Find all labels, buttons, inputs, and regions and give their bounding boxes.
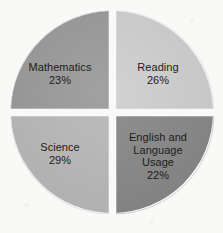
pie-slice-label-reading: Reading 26%	[120, 61, 196, 86]
pie-slice-percent-reading: 26%	[120, 74, 196, 87]
pie-slice-label-mathematics: Mathematics 23%	[14, 61, 106, 86]
pie-slice-name-reading: Reading	[120, 61, 196, 74]
pie-chart-canvas	[0, 0, 223, 233]
pie-slice-label-science: Science 29%	[20, 141, 100, 166]
pie-chart: Mathematics 23% Reading 26% Science 29% …	[0, 0, 223, 233]
pie-slice-name-english-line2: Language	[122, 144, 194, 157]
pie-slice-percent-mathematics: 23%	[14, 74, 106, 87]
pie-slice-name-science: Science	[20, 141, 100, 154]
pie-slice-name-english-line1: English and	[122, 131, 194, 144]
pie-slice-name-mathematics: Mathematics	[14, 61, 106, 74]
pie-slice-label-english-and-language-usage: English and Language Usage 22%	[122, 131, 194, 181]
pie-slice-percent-english-and-language-usage: 22%	[122, 169, 194, 182]
pie-slice-name-english-line3: Usage	[122, 156, 194, 169]
pie-slice-percent-science: 29%	[20, 154, 100, 167]
